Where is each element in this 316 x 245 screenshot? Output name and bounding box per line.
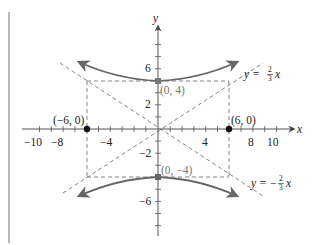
svg-text:2: 2 [268, 65, 272, 74]
svg-text:2: 2 [279, 174, 283, 183]
y-tick-label: 6 [145, 62, 151, 74]
x-tick-label: 8 [248, 136, 254, 148]
y-axis-label: y [152, 12, 159, 25]
lower-branch-right [158, 177, 237, 196]
svg-text:x: x [274, 68, 281, 80]
point-right-vertex [226, 126, 232, 132]
x-tick-label: −8 [51, 136, 63, 148]
hyperbola-figure: y x −10 −8 −4 4 8 10 6 2 −2 −6 (−6, 0) (… [0, 0, 316, 245]
point-right-label: (6, 0) [231, 114, 256, 127]
x-tick-label: 4 [202, 136, 208, 148]
svg-text:y =: y = [243, 68, 260, 81]
point-left-label: (−6, 0) [53, 114, 85, 127]
svg-text:3: 3 [268, 74, 272, 83]
asymptote-positive-label: y = 2 3 x [243, 65, 281, 83]
point-left-vertex [84, 126, 90, 132]
x-tick-label: −4 [100, 136, 112, 148]
svg-text:3: 3 [279, 183, 283, 192]
point-top-label: (0, 4) [160, 84, 185, 97]
x-tick-label: 10 [267, 136, 279, 148]
asymptote-negative-label: y = − 2 3 x [250, 174, 292, 192]
y-tick-label: −6 [139, 195, 151, 207]
lower-branch-left [79, 177, 158, 196]
y-tick-label: −2 [139, 147, 151, 159]
svg-text:y = −: y = − [250, 177, 277, 190]
y-tick-label: 2 [145, 98, 151, 110]
upper-branch-right [158, 62, 237, 81]
x-tick-label: −10 [24, 136, 42, 148]
x-axis-label: x [296, 123, 303, 135]
point-bottom-label: (0, −4) [161, 164, 193, 177]
svg-text:x: x [285, 177, 292, 189]
